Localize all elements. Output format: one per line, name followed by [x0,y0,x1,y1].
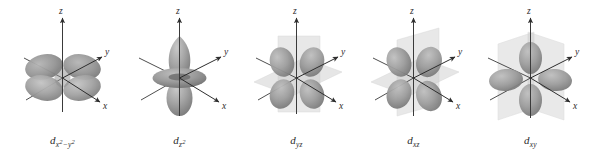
orbital-diagram-dx2-y2: z y x [4,0,121,126]
orbital-diagram-dyz: z y x [238,0,355,126]
axis-label-x: x [221,101,227,111]
orbital-label-sub-sup2: 2 [72,138,75,145]
orbital-label-dxz: dxz [355,134,472,146]
axis-label-z: z [292,6,297,16]
orbital-label-sub-main: xz [413,140,420,149]
axis-label-y: y [457,47,463,57]
axis-label-z: z [58,6,63,16]
orbital-label-dz2: dz2 [121,134,238,146]
orbital-label-dx2-y2: dx2−y2 [4,134,121,146]
axis-label-x: x [102,101,108,111]
axis-label-x: x [455,101,461,111]
orbital-label-dyz: dyz [238,134,355,146]
axis-label-z: z [175,6,180,16]
orbital-cell-dxy: z y x dxy [472,0,589,154]
orbital-diagram-dxz: z y x [355,0,472,126]
orbital-cell-dx2-y2: z y x dx2−y2 [4,0,121,154]
orbital-label-sub-main: yz [296,140,303,149]
orbital-cell-dyz: z y x dyz [238,0,355,154]
orbital-label-base: d [524,134,530,146]
axis-label-y: y [104,47,110,57]
orbital-cell-dxz: z y x dxz [355,0,472,154]
d-orbitals-figure: z y x dx2−y2 [0,0,589,154]
axis-label-x: x [572,101,578,111]
axis-label-x: x [338,101,344,111]
axis-label-y: y [223,47,229,57]
orbital-label-dxy: dxy [472,134,589,146]
axis-label-z: z [409,6,414,16]
orbital-cell-dz2: z y x dz2 [121,0,238,154]
orbital-label-sub-sup1: 2 [182,138,185,145]
orbital-diagram-dz2: z y x [121,0,238,126]
axis-label-z: z [526,6,531,16]
orbital-label-sub-sup1: 2 [59,138,62,145]
orbital-label-sub-mid: −y [63,140,72,149]
axis-label-y: y [574,47,580,57]
orbital-diagram-dxy: z y x [472,0,589,126]
orbital-label-sub-main: xy [530,140,537,149]
axis-label-y: y [340,47,346,57]
